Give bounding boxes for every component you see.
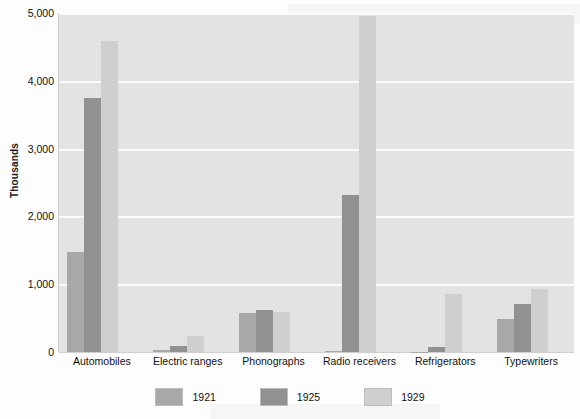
legend-swatch-1929: [364, 388, 392, 406]
y-axis-title: Thousands: [9, 126, 20, 216]
bar-phonographs-1929[interactable]: [273, 312, 290, 352]
bar-group: [325, 13, 376, 352]
bar-typewriters-1921[interactable]: [497, 319, 514, 352]
x-axis-label-electric-ranges: Electric ranges: [145, 355, 231, 367]
y-axis-tick-label: 4,000: [2, 75, 54, 87]
bar-electric-ranges-1925[interactable]: [170, 346, 187, 352]
legend-item-1921[interactable]: 1921: [155, 388, 215, 406]
bar-typewriters-1929[interactable]: [531, 289, 548, 352]
bar-group: [239, 13, 290, 352]
y-axis-tick-label: 1,000: [2, 278, 54, 290]
x-axis-label-phonographs: Phonographs: [231, 355, 317, 367]
y-axis-tick-label: 5,000: [2, 7, 54, 19]
bar-electric-ranges-1921[interactable]: [153, 350, 170, 352]
bar-electric-ranges-1929[interactable]: [187, 336, 204, 352]
legend-label-1921: 1921: [192, 391, 215, 403]
bar-typewriters-1925[interactable]: [514, 304, 531, 352]
legend-item-1929[interactable]: 1929: [364, 388, 424, 406]
x-axis-label-radio-receivers: Radio receivers: [317, 355, 403, 367]
bar-automobiles-1929[interactable]: [101, 41, 118, 352]
bar-groups: [59, 13, 574, 352]
legend-label-1929: 1929: [401, 391, 424, 403]
bar-group: [411, 13, 462, 352]
bar-radio-receivers-1921[interactable]: [325, 351, 342, 352]
bar-radio-receivers-1929[interactable]: [359, 16, 376, 352]
y-axis-tick-label: 0: [2, 346, 54, 358]
bar-phonographs-1925[interactable]: [256, 310, 273, 352]
legend-swatch-1921: [155, 388, 183, 406]
legend-item-1925[interactable]: 1925: [260, 388, 320, 406]
page-bleed-through-artifact: [210, 404, 440, 419]
x-axis-label-typewriters: Typewriters: [488, 355, 574, 367]
bar-automobiles-1925[interactable]: [84, 98, 101, 352]
bar-refrigerators-1925[interactable]: [428, 347, 445, 352]
x-axis-label-refrigerators: Refrigerators: [402, 355, 488, 367]
chart-page: 01,0002,0003,0004,0005,000 Thousands Aut…: [0, 0, 580, 419]
bar-group: [153, 13, 204, 352]
bar-automobiles-1921[interactable]: [67, 252, 84, 352]
bar-refrigerators-1929[interactable]: [445, 294, 462, 352]
legend-label-1925: 1925: [297, 391, 320, 403]
x-axis-label-automobiles: Automobiles: [59, 355, 145, 367]
bar-radio-receivers-1925[interactable]: [342, 195, 359, 352]
bar-group: [67, 13, 118, 352]
x-axis-line: [59, 352, 574, 353]
bar-group: [497, 13, 548, 352]
legend: 192119251929: [0, 388, 580, 406]
bar-phonographs-1921[interactable]: [239, 313, 256, 352]
legend-swatch-1925: [260, 388, 288, 406]
